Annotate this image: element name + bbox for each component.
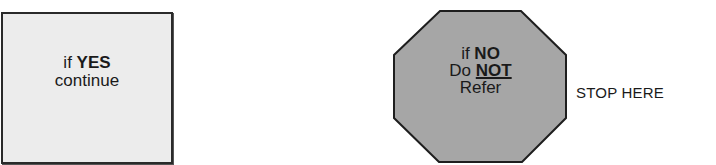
stop-sign: if NO Do NOT Refer xyxy=(393,10,568,164)
yes-continue-box: if YES continue xyxy=(1,12,173,164)
stop-line1: if NO xyxy=(393,45,568,62)
yes-box-if-label: if xyxy=(63,53,72,72)
stop-line2: Do NOT xyxy=(393,62,568,79)
yes-box-yes-label: YES xyxy=(77,53,111,72)
yes-box-line1: if YES xyxy=(3,54,171,72)
stop-refer-label: Refer xyxy=(393,79,568,96)
stop-here-label: STOP HERE xyxy=(576,84,664,101)
yes-box-continue-label: continue xyxy=(3,72,171,90)
stop-sign-text: if NO Do NOT Refer xyxy=(393,45,568,96)
yes-box-text: if YES continue xyxy=(3,54,171,90)
